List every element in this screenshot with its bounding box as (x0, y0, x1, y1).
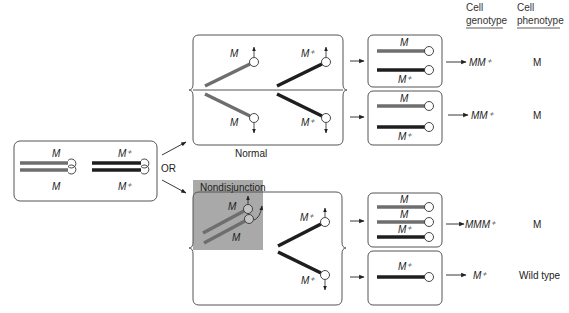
result-4-chromosome-1-label: M⁺ (398, 261, 412, 272)
normal-upper-mutant-label: M (230, 48, 239, 59)
normal-division: M M M⁺ M⁺ Normal (189, 35, 347, 159)
centromere-icon (141, 159, 149, 174)
normal-upper-wild-label: M⁺ (301, 48, 315, 59)
nondisjunction-upper-wild-label: M⁺ (300, 212, 314, 223)
result-cell-1: M M⁺ MM⁺ M (368, 35, 541, 87)
nondisjunction-mutant-b-label: M (232, 232, 241, 243)
normal-label: Normal (235, 148, 267, 159)
result-3-phenotype: M (533, 219, 541, 230)
nondisjunction-diagram: Cell genotype Cell phenotype M M M⁺ M⁺ O… (0, 0, 569, 313)
result-3-chromosome-2-label: M (400, 209, 409, 220)
result-2-chromosome-2-label: M⁺ (398, 131, 412, 142)
result-1-phenotype: M (533, 57, 541, 68)
centromere-icon (68, 159, 76, 174)
result-cell-2: M M⁺ MM⁺ M (368, 91, 541, 145)
parent-mutant-top-label: M (52, 148, 61, 159)
column-headers: Cell genotype Cell phenotype (466, 2, 564, 28)
nondisjunction-lower-wild-label: M⁺ (301, 275, 315, 286)
parent-cell: M M M⁺ M⁺ (14, 141, 157, 201)
nondisjunction-label: Nondisjunction (200, 182, 266, 193)
result-4-genotype: M⁺ (473, 270, 487, 281)
result-3-genotype: MMM⁺ (465, 219, 496, 230)
parent-wild-top-label: M⁺ (118, 148, 132, 159)
phenotype-header-line2: phenotype (517, 15, 564, 26)
parent-wild-bottom-label: M⁺ (118, 181, 132, 192)
result-3-chromosome-3-label: M⁺ (398, 224, 412, 235)
arrow-to-nondisjunction (162, 180, 186, 193)
result-4-phenotype: Wild type (519, 270, 561, 281)
result-2-chromosome-1-label: M (400, 93, 409, 104)
genotype-header-line2: genotype (466, 15, 508, 26)
nondisjunction-mutant-a-label: M (228, 201, 237, 212)
result-cell-4: M⁺ M⁺ Wild type (368, 251, 561, 305)
result-2-phenotype: M (533, 110, 541, 121)
result-1-genotype: MM⁺ (469, 57, 492, 68)
genotype-header-line1: Cell (466, 2, 483, 13)
result-2-genotype: MM⁺ (471, 110, 494, 121)
normal-lower-wild-label: M⁺ (301, 117, 315, 128)
normal-lower-mutant-label: M (230, 117, 239, 128)
phenotype-header-line1: Cell (517, 2, 534, 13)
result-1-chromosome-2-label: M⁺ (398, 74, 412, 85)
or-label: OR (161, 163, 176, 174)
result-3-chromosome-1-label: M (400, 194, 409, 205)
result-cell-3: M M M⁺ MMM⁺ M (368, 193, 541, 247)
arrow-to-normal (162, 142, 186, 155)
nondisjunction-division: Nondisjunction M M M⁺ M⁺ (189, 180, 346, 305)
parent-mutant-bottom-label: M (52, 181, 61, 192)
result-1-chromosome-1-label: M (400, 37, 409, 48)
